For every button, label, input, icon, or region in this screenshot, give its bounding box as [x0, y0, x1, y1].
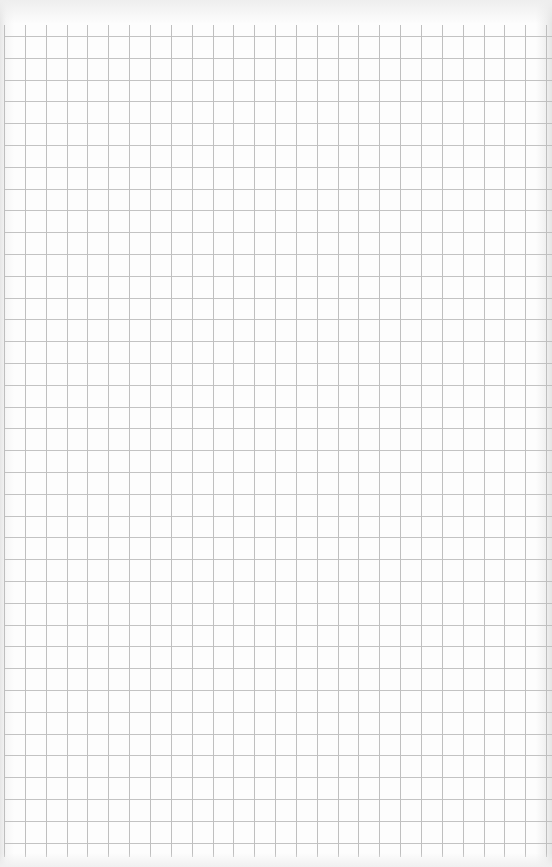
graph-paper-page — [0, 0, 552, 867]
scan-shadow-top — [0, 0, 552, 24]
scan-shadow-bottom — [0, 853, 552, 867]
grid-lines — [4, 25, 552, 857]
